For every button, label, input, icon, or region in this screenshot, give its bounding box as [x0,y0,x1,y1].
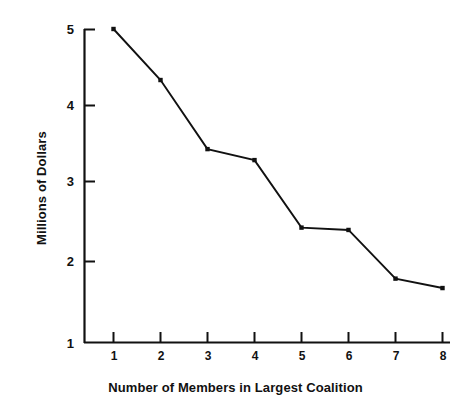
x-tick-label-7: 7 [386,350,406,362]
data-point-4 [252,158,256,162]
x-tick-label-5: 5 [292,350,312,362]
data-point-7 [393,276,397,280]
y-tick-label-3: 3 [54,175,74,188]
y-tick-label-4: 4 [54,99,74,112]
y-axis-title: Millions of Dollars [35,131,48,245]
x-tick-label-8: 8 [433,350,453,362]
x-tick-label-3: 3 [198,350,218,362]
x-tick-label-2: 2 [151,350,171,362]
x-tick-label-4: 4 [245,350,265,362]
y-tick-label-1: 1 [54,337,74,350]
x-tick-label-1: 1 [104,350,124,362]
data-point-5 [299,225,303,229]
y-tick-label-5: 5 [54,23,74,36]
data-point-8 [440,286,444,290]
data-point-3 [205,147,209,151]
data-point-2 [158,78,162,82]
x-tick-label-6: 6 [339,350,359,362]
chart-figure: 5 4 3 2 1 1 2 3 4 5 6 7 8 Millions of Do… [0,0,471,413]
y-tick-label-2: 2 [54,255,74,268]
data-point-1 [111,27,115,31]
x-axis-title: Number of Members in Largest Coalition [0,381,471,394]
data-point-6 [346,228,350,232]
